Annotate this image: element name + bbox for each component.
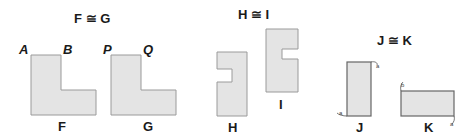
shape-k xyxy=(401,91,454,116)
svg-text:a: a xyxy=(376,63,380,69)
shape-h xyxy=(217,52,247,116)
shape-f xyxy=(31,55,96,115)
shape-label-h: H xyxy=(228,121,237,134)
shape-g xyxy=(111,55,176,115)
shape-label-i: I xyxy=(279,98,283,111)
shape-label-f: F xyxy=(58,120,66,133)
shape-label-g: G xyxy=(143,120,153,133)
congruent-figures-diagram: F ≅ G H ≅ I J ≅ K A B P Q a a b a F G H … xyxy=(0,0,469,137)
shape-i xyxy=(266,29,298,92)
svg-text:b: b xyxy=(401,82,405,88)
svg-text:a: a xyxy=(339,110,343,116)
shape-label-k: K xyxy=(424,121,433,134)
shapes-svg: a a b a xyxy=(0,0,469,137)
shape-label-j: J xyxy=(356,121,363,134)
shape-j xyxy=(347,62,371,116)
